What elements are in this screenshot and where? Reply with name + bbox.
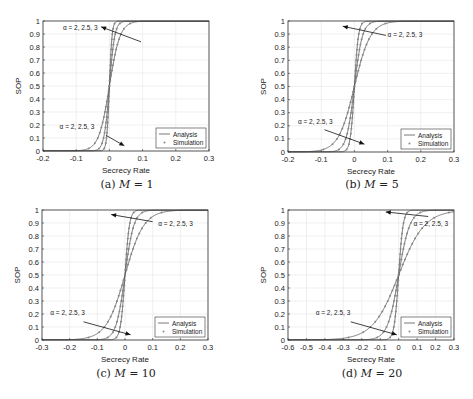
simulation-marker bbox=[356, 49, 358, 51]
y-tick-label: 1 bbox=[36, 17, 40, 26]
simulation-marker bbox=[99, 132, 101, 134]
simulation-marker bbox=[393, 326, 395, 328]
x-tick-label: -0.2 bbox=[355, 343, 368, 352]
simulation-marker bbox=[103, 116, 105, 118]
simulation-marker bbox=[136, 217, 138, 219]
simulation-marker bbox=[120, 300, 122, 302]
simulation-marker bbox=[133, 212, 135, 214]
y-tick-label: 0.1 bbox=[29, 323, 39, 332]
x-tick-label: -0.2 bbox=[63, 343, 76, 352]
simulation-marker bbox=[400, 243, 402, 245]
simulation-marker bbox=[375, 28, 377, 30]
simulation-marker bbox=[127, 253, 129, 255]
simulation-marker bbox=[408, 227, 410, 229]
x-tick-label: 0 bbox=[397, 343, 401, 352]
y-tick-label: 0.6 bbox=[275, 69, 285, 78]
y-axis-label: SOP bbox=[13, 267, 22, 284]
simulation-marker bbox=[396, 300, 398, 302]
simulation-marker bbox=[389, 316, 391, 318]
simulation-marker bbox=[347, 127, 349, 129]
chart-panel-d: -0.6-0.5-0.4-0.3-0.2-0.100.10.20.3Secrec… bbox=[258, 204, 460, 374]
x-tick-label: 0 bbox=[123, 343, 127, 352]
simulation-marker bbox=[389, 336, 391, 338]
simulation-marker bbox=[351, 106, 353, 108]
y-axis: 00.10.20.30.40.50.60.70.80.91SOP bbox=[259, 17, 290, 157]
y-tick-label: 0.3 bbox=[275, 108, 285, 117]
x-axis: -0.3-0.2-0.100.10.20.3Secrecy Rate bbox=[36, 338, 214, 364]
y-tick-label: 0.4 bbox=[275, 284, 285, 293]
simulation-marker bbox=[161, 212, 163, 214]
simulation-marker bbox=[104, 111, 106, 113]
annotation-label: α = 2, 2.5, 3 bbox=[50, 309, 85, 316]
simulation-marker bbox=[136, 238, 138, 240]
simulation-marker bbox=[107, 106, 109, 108]
simulation-marker bbox=[365, 44, 367, 46]
simulation-marker bbox=[126, 248, 128, 250]
simulation-marker bbox=[122, 290, 124, 292]
simulation-marker bbox=[145, 222, 147, 224]
simulation-marker bbox=[346, 133, 348, 135]
simulation-marker bbox=[404, 217, 406, 219]
y-tick-label: 0.7 bbox=[30, 56, 40, 65]
simulation-marker bbox=[141, 227, 143, 229]
y-tick-label: 1 bbox=[35, 206, 39, 215]
simulation-marker bbox=[121, 310, 123, 312]
y-axis-label: SOP bbox=[259, 267, 268, 284]
simulation-marker bbox=[342, 143, 344, 145]
x-tick-label: 0.1 bbox=[137, 154, 147, 163]
simulation-marker bbox=[356, 44, 358, 46]
y-tick-label: 0.5 bbox=[275, 271, 285, 280]
simulation-marker bbox=[105, 142, 107, 144]
x-tick-label: -0.1 bbox=[374, 343, 387, 352]
y-axis: 00.10.20.30.40.50.60.70.80.91SOP bbox=[14, 17, 45, 156]
y-tick-label: 0.8 bbox=[275, 43, 285, 52]
legend-analysis: Analysis bbox=[418, 132, 443, 140]
simulation-marker bbox=[360, 59, 362, 61]
simulation-marker bbox=[398, 274, 400, 276]
simulation-marker bbox=[345, 138, 347, 140]
simulation-marker bbox=[141, 212, 143, 214]
simulation-marker bbox=[351, 96, 353, 98]
simulation-marker bbox=[364, 28, 366, 30]
annotation-label: α = 2, 2.5, 3 bbox=[316, 309, 351, 316]
y-axis: 00.10.20.30.40.50.60.70.80.91SOP bbox=[13, 206, 44, 345]
simulation-marker bbox=[339, 133, 341, 135]
x-tick-label: -0.5 bbox=[300, 343, 313, 352]
simulation-marker bbox=[403, 222, 405, 224]
simulation-marker bbox=[405, 238, 407, 240]
x-tick-label: 0.1 bbox=[147, 343, 157, 352]
legend-simulation: Simulation bbox=[418, 140, 449, 147]
simulation-marker bbox=[122, 305, 124, 307]
simulation-marker bbox=[102, 121, 104, 123]
simulation-marker bbox=[359, 65, 361, 67]
simulation-marker bbox=[114, 33, 116, 35]
simulation-marker bbox=[129, 258, 131, 260]
simulation-marker bbox=[338, 148, 340, 150]
simulation-marker bbox=[406, 212, 408, 214]
y-tick-label: 0.7 bbox=[275, 245, 285, 254]
simulation-marker bbox=[106, 116, 108, 118]
x-axis-label: Secrecy Rate bbox=[101, 355, 150, 364]
simulation-marker bbox=[406, 253, 408, 255]
simulation-marker bbox=[409, 248, 411, 250]
y-tick-label: 0 bbox=[35, 336, 39, 345]
simulation-marker bbox=[406, 232, 408, 234]
simulation-marker bbox=[391, 310, 393, 312]
x-tick-label: -0.1 bbox=[91, 343, 104, 352]
x-axis: -0.6-0.5-0.4-0.3-0.2-0.100.10.20.3Secrec… bbox=[282, 338, 460, 364]
simulation-marker bbox=[110, 43, 112, 45]
simulation-marker bbox=[402, 248, 404, 250]
simulation-marker bbox=[116, 28, 118, 30]
y-tick-label: 0.8 bbox=[29, 232, 39, 241]
simulation-marker bbox=[403, 243, 405, 245]
y-tick-label: 0.6 bbox=[29, 258, 39, 267]
simulation-marker bbox=[353, 86, 355, 88]
simulation-marker bbox=[106, 101, 108, 103]
simulation-marker bbox=[130, 238, 132, 240]
simulation-marker bbox=[116, 43, 118, 45]
simulation-marker bbox=[400, 248, 402, 250]
simulation-marker bbox=[100, 127, 102, 129]
simulation-marker bbox=[386, 326, 388, 328]
simulation-marker bbox=[381, 310, 383, 312]
simulation-marker bbox=[105, 121, 107, 123]
